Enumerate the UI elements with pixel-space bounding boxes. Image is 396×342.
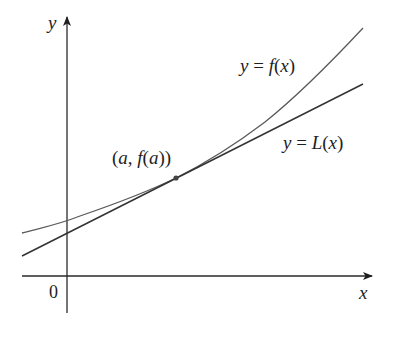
linearization-diagram: y x 0 y = f(x) y = L(x) (a, f(a)) (0, 0, 396, 342)
y-axis-label: y (46, 12, 57, 33)
tangent-line-L-label: y = L(x) (281, 132, 343, 154)
tangent-line-L (22, 84, 363, 256)
origin-label: 0 (49, 282, 58, 302)
x-axis-label: x (358, 282, 368, 303)
tangent-point (173, 175, 178, 180)
curve-f (22, 28, 363, 233)
curve-f-label: y = f(x) (238, 55, 295, 77)
tangent-point-label: (a, f(a)) (112, 147, 171, 169)
